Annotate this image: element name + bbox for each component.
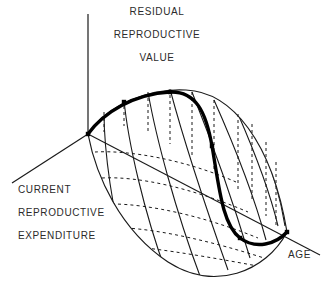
trajectory-marker-1 <box>122 100 126 104</box>
axis-label-rrv-line-1: RESIDUAL <box>98 0 216 23</box>
surface-mesh-solid <box>104 89 285 276</box>
trajectory-marker-5 <box>285 230 289 234</box>
figure-canvas: RESIDUAL REPRODUCTIVE VALUE CURRENT REPR… <box>0 0 335 286</box>
axis-left-cre <box>12 134 88 183</box>
axis-label-cre-line-1: CURRENT <box>18 178 105 201</box>
axis-label-residual-reproductive-value: RESIDUAL REPRODUCTIVE VALUE <box>98 0 216 69</box>
contour-line-3 <box>126 228 264 258</box>
mesh-line-0 <box>104 112 128 268</box>
axis-label-rrv-line-3: VALUE <box>98 46 216 69</box>
mesh-line-1 <box>124 100 166 272</box>
axis-label-current-reproductive-expenditure: CURRENT REPRODUCTIVE EXPENDITURE <box>18 178 105 247</box>
trajectory-marker-4 <box>238 236 242 240</box>
axis-label-cre-line-2: REPRODUCTIVE <box>18 201 105 224</box>
surface-outline-lower <box>88 134 287 276</box>
trajectory-marker-0 <box>86 132 90 136</box>
trajectory-marker-3 <box>210 144 214 148</box>
axis-right-age <box>88 134 320 255</box>
axis-label-rrv-line-2: REPRODUCTIVE <box>98 23 216 46</box>
surface-outline <box>88 90 287 277</box>
mesh-line-2 <box>148 92 200 276</box>
axis-label-cre-line-3: EXPENDITURE <box>18 224 105 247</box>
surface-mesh-contours <box>95 152 268 268</box>
mesh-line-6 <box>238 114 278 226</box>
axis-label-age: AGE <box>288 243 311 266</box>
mesh-line-3 <box>170 89 228 270</box>
axis-label-age-line-1: AGE <box>288 243 311 266</box>
trajectory-marker-2 <box>168 90 172 94</box>
